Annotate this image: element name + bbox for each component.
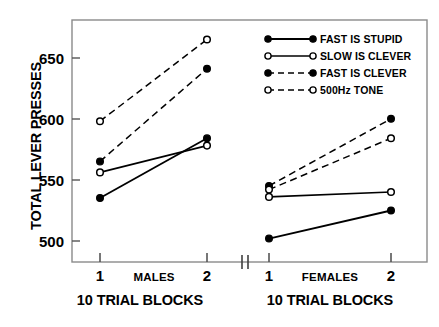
data-point bbox=[388, 189, 395, 196]
y-tick-label-550: 550 bbox=[18, 172, 64, 189]
x-tick-label-females-1: 1 bbox=[255, 267, 283, 284]
data-point bbox=[266, 235, 273, 242]
y-axis-title: TOTAL LEVER PRESSES bbox=[28, 46, 44, 246]
data-point bbox=[266, 194, 273, 201]
data-point bbox=[204, 135, 211, 142]
y-tick-label-500: 500 bbox=[18, 233, 64, 250]
group-label-males: MALES bbox=[114, 271, 194, 283]
y-tick-label-650: 650 bbox=[18, 50, 64, 67]
data-point bbox=[204, 142, 211, 149]
data-point bbox=[388, 207, 395, 214]
legend-label-500hz-tone: 500Hz TONE bbox=[320, 84, 383, 96]
group-label-females: FEMALES bbox=[290, 271, 370, 283]
legend-label-fast-is-clever: FAST IS CLEVER bbox=[320, 67, 407, 79]
y-tick-label-600: 600 bbox=[18, 111, 64, 128]
data-point bbox=[97, 195, 104, 202]
x-axis-label-left: 10 TRIAL BLOCKS bbox=[50, 292, 230, 308]
x-tick-label-females-2: 2 bbox=[377, 267, 405, 284]
data-point bbox=[97, 158, 104, 165]
chart-figure: TOTAL LEVER PRESSES 650 600 550 500 1 2 … bbox=[0, 0, 439, 327]
legend-label-fast-is-stupid: FAST IS STUPID bbox=[320, 33, 403, 45]
data-point bbox=[388, 115, 395, 122]
legend-label-slow-is-clever: SLOW IS CLEVER bbox=[320, 50, 411, 62]
data-point bbox=[97, 169, 104, 176]
data-point bbox=[204, 65, 211, 72]
x-tick-label-males-2: 2 bbox=[193, 267, 221, 284]
data-point bbox=[204, 36, 211, 43]
data-point bbox=[388, 135, 395, 142]
data-point bbox=[97, 118, 104, 125]
x-axis-label-right: 10 TRIAL BLOCKS bbox=[240, 292, 420, 308]
x-tick-label-males-1: 1 bbox=[86, 267, 114, 284]
data-point bbox=[266, 186, 273, 193]
